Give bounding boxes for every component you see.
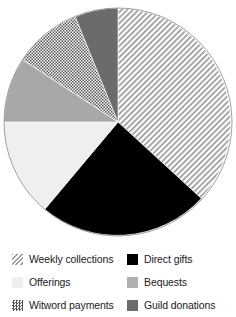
legend-item-witword-payments: Witword payments [0,294,118,317]
pie-chart-page: Weekly collections Direct gifts Offering… [0,0,236,317]
swatch-gray-solid-icon [127,277,138,288]
swatch-black-solid-icon [127,254,138,265]
legend-label-weekly-collections: Weekly collections [29,254,113,265]
legend-label-offerings: Offerings [29,277,71,288]
legend-item-direct-gifts: Direct gifts [118,248,236,271]
legend-label-direct-gifts: Direct gifts [144,254,192,265]
swatch-diagonal-hatch-icon [12,254,23,265]
legend-item-guild-donations: Guild donations [118,294,236,317]
legend-item-weekly-collections: Weekly collections [0,248,118,271]
legend-item-offerings: Offerings [0,271,118,294]
legend-item-bequests: Bequests [118,271,236,294]
swatch-checkerboard-icon [12,300,23,311]
pie-chart-svg [0,0,236,244]
pie-slices [4,8,231,235]
swatch-light-solid-icon [12,277,23,288]
pie-chart-area [0,0,236,244]
swatch-darkgray-solid-icon [127,300,138,311]
legend-label-guild-donations: Guild donations [144,300,215,311]
chart-legend: Weekly collections Direct gifts Offering… [0,248,236,317]
legend-label-witword-payments: Witword payments [29,300,114,311]
legend-label-bequests: Bequests [144,277,187,288]
